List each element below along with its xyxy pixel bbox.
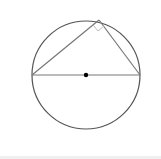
right-angle-marker xyxy=(93,25,104,31)
triangle-right-leg xyxy=(99,20,140,75)
center-point xyxy=(84,73,88,77)
bottom-divider xyxy=(0,156,161,159)
thales-diagram xyxy=(0,0,161,159)
triangle-left-leg xyxy=(32,20,99,75)
